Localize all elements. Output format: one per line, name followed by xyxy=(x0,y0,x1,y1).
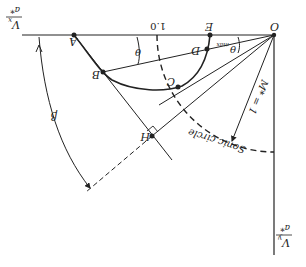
diagram-canvas: O A B C D E H 1.0 θ θ max β M* = 1 Sonic… xyxy=(0,0,306,267)
x-axis-label: V x a* xyxy=(6,5,22,31)
beta-arc xyxy=(39,37,90,188)
tick-label-1: 1.0 xyxy=(150,21,166,32)
label-D: D xyxy=(191,44,201,57)
label-A: A xyxy=(69,35,78,48)
label-theta-max: θ xyxy=(230,44,236,55)
label-B: B xyxy=(92,68,101,81)
line-OB xyxy=(103,35,274,72)
label-H: H xyxy=(140,130,151,143)
svg-text:a*: a* xyxy=(10,5,20,15)
point-B xyxy=(101,70,106,75)
y-axis-label: V y a* xyxy=(276,223,292,249)
hodograph-diagram: O A B C D E H 1.0 θ θ max β M* = 1 Sonic… xyxy=(0,0,306,267)
label-mach-one: M* = 1 xyxy=(247,77,271,116)
label-theta: θ xyxy=(135,47,141,58)
label-E: E xyxy=(205,20,214,33)
label-theta-max-sub: max xyxy=(216,42,229,49)
tangent-line-AB xyxy=(74,35,172,160)
label-beta: β xyxy=(51,109,58,122)
label-sonic-circle: Sonic circle xyxy=(186,127,246,156)
label-C: C xyxy=(166,75,175,88)
point-C xyxy=(176,85,181,90)
theta-max-arc xyxy=(238,37,240,53)
dashed-line-H xyxy=(86,136,152,192)
svg-text:a*: a* xyxy=(280,223,290,233)
point-D xyxy=(205,47,210,52)
label-O: O xyxy=(270,20,279,33)
